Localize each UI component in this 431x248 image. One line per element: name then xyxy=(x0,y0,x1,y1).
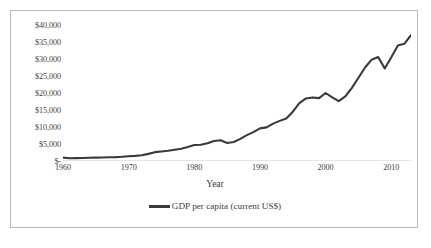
y-tick-label: $5,000 xyxy=(17,140,61,149)
y-axis: $-$5,000$10,000$15,000$20,000$25,000$30,… xyxy=(17,19,61,167)
y-tick-label: $10,000 xyxy=(17,123,61,132)
x-tick-label: 1990 xyxy=(252,163,268,173)
x-tick-label: 1960 xyxy=(55,163,71,173)
line-swatch-icon xyxy=(149,205,170,207)
line-series-svg xyxy=(63,25,411,161)
plot-area xyxy=(63,25,411,161)
x-tick-label: 2010 xyxy=(383,163,399,173)
y-tick-label: $25,000 xyxy=(17,72,61,81)
y-tick-label: $15,000 xyxy=(17,106,61,115)
y-tick-label: $40,000 xyxy=(17,21,61,30)
y-tick-label: $30,000 xyxy=(17,55,61,64)
x-tick-label: 1980 xyxy=(186,163,202,173)
x-tick-label: 2000 xyxy=(318,163,334,173)
legend-item-label: GDP per capita (current US$) xyxy=(172,201,281,212)
chart-legend: GDP per capita (current US$) xyxy=(11,201,419,212)
chart-figure: $-$5,000$10,000$15,000$20,000$25,000$30,… xyxy=(10,10,418,228)
y-tick-label: $35,000 xyxy=(17,38,61,47)
x-axis: 196019701980199020002010 xyxy=(63,163,411,177)
y-tick-label: $20,000 xyxy=(17,89,61,98)
x-axis-title: Year xyxy=(11,178,419,190)
gdp-per-capita-line xyxy=(63,35,411,158)
x-tick-label: 1970 xyxy=(121,163,137,173)
